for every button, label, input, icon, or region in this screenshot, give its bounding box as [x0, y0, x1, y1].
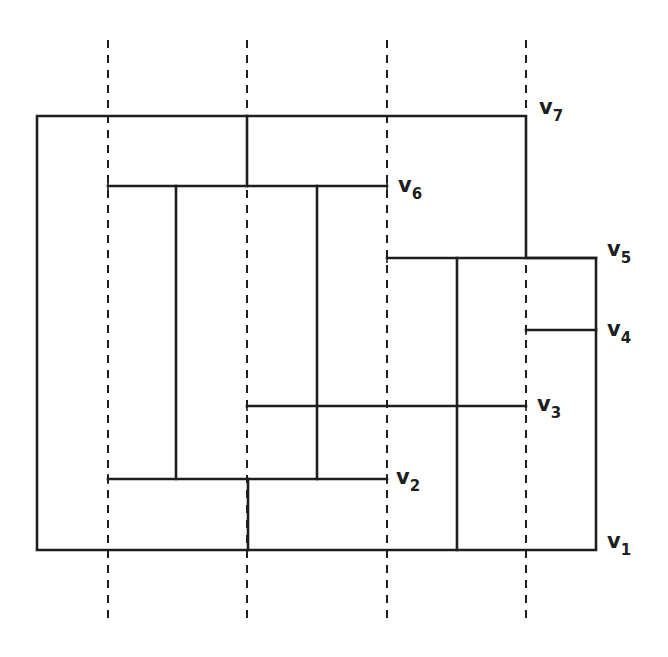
label-v1: v1 [607, 529, 631, 559]
label-v4: v4 [607, 317, 631, 347]
label-subscript: 3 [551, 404, 561, 422]
label-v3: v3 [537, 392, 561, 422]
label-subscript: 5 [621, 249, 631, 267]
label-base: v [607, 317, 621, 341]
label-subscript: 6 [412, 185, 422, 203]
label-subscript: 2 [410, 477, 420, 495]
label-subscript: 4 [621, 329, 631, 347]
partition-segments [108, 116, 596, 550]
label-base: v [396, 465, 410, 489]
label-v2: v2 [396, 465, 420, 495]
label-v6: v6 [398, 173, 422, 203]
label-subscript: 7 [553, 107, 563, 125]
label-base: v [398, 173, 412, 197]
label-base: v [607, 237, 621, 261]
floorplan-diagram: v1v2v3v4v5v6v7 [0, 0, 668, 657]
label-subscript: 1 [621, 541, 631, 559]
label-base: v [537, 392, 551, 416]
label-base: v [539, 95, 553, 119]
label-v5: v5 [607, 237, 631, 267]
label-base: v [607, 529, 621, 553]
label-v7: v7 [539, 95, 563, 125]
